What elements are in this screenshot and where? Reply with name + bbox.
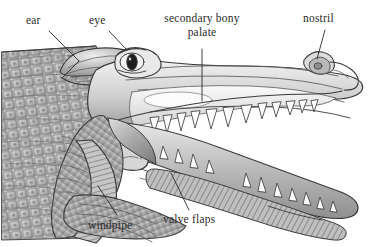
label-windpipe: windpipe [88, 219, 132, 232]
label-ear: ear [26, 14, 41, 27]
label-secondary-bony-palate-line2: palate [142, 26, 262, 39]
figure-canvas: ear eye secondary bony palate nostril wi… [0, 0, 370, 247]
leader-eye [109, 31, 127, 50]
label-nostril: nostril [303, 12, 334, 25]
label-secondary-bony-palate-line1: secondary bony [142, 12, 262, 25]
label-valve-flaps: valve flaps [163, 213, 215, 226]
label-eye: eye [89, 14, 106, 27]
eye [115, 48, 161, 78]
